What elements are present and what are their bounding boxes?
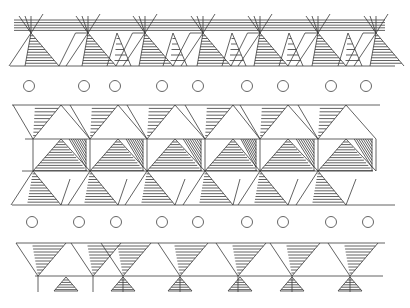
circle-ornament	[363, 217, 374, 228]
frieze-artwork	[0, 0, 410, 308]
middle-band	[11, 105, 395, 205]
circle-ornament	[278, 81, 289, 92]
circle-ornament	[74, 217, 85, 228]
circle-ornament	[79, 81, 90, 92]
circle-ornament	[193, 81, 204, 92]
circle-ornament	[326, 81, 337, 92]
circle-ornament	[242, 217, 253, 228]
circle-ornament	[27, 217, 38, 228]
circle-ornament	[157, 81, 168, 92]
circle-ornament	[24, 81, 35, 92]
circle-ornament	[193, 217, 204, 228]
circle-ornament	[110, 81, 121, 92]
circle-ornament	[157, 217, 168, 228]
pattern-canvas	[0, 0, 410, 308]
circle-ornament	[242, 81, 253, 92]
bottom-band	[16, 243, 385, 292]
circle-row-1	[24, 81, 372, 92]
circle-row-2	[27, 217, 374, 228]
circle-ornament	[326, 217, 337, 228]
top-band	[9, 14, 404, 66]
circle-ornament	[111, 217, 122, 228]
circle-ornament	[361, 81, 372, 92]
circle-ornament	[278, 217, 289, 228]
